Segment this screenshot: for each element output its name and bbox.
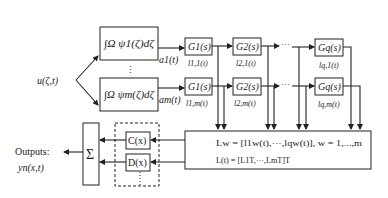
signal-a1: a1(t) [159, 54, 179, 66]
g1-block-rowm: G1(s) [188, 81, 211, 93]
outputs-title: Outputs: [15, 146, 49, 157]
g2-block-row1: G2(s) [236, 41, 259, 53]
l1m-label: l1,m(t) [186, 99, 208, 108]
branch-arrow-top [76, 56, 98, 80]
l11-label: l1,1(t) [188, 59, 208, 68]
c-block: C(x) [126, 132, 150, 149]
g2-block-rowm: G2(s) [236, 81, 259, 93]
gq-block-row1: Gq(s) [318, 42, 341, 54]
output-signal: yn(x,t) [17, 162, 44, 174]
block-diagram: u(ζ,t) ∫Ω ψ1(ζ)dζ ⋮ ∫Ω ψm(ζ)dζ a1(t) am(… [0, 0, 388, 198]
filter-row-m: G1(s) l1,m(t) G2(s) l2,m(t) ··· Gq(s) lq… [185, 78, 343, 109]
gq-block-rowm: Gq(s) [318, 81, 341, 93]
hdots-rowm: ··· [281, 79, 290, 89]
signal-am: am(t) [159, 94, 181, 106]
collector-line-1: Lw = [l1w(t),···,lqw(t)], w = 1,...,m [216, 138, 362, 148]
integrator-block-m: ∫Ω ψm(ζ)dζ [100, 78, 158, 111]
l21-label: l2,1(t) [236, 59, 256, 68]
l2m-label: l2,m(t) [234, 99, 256, 108]
d-block-label: D(x) [128, 157, 147, 169]
lqm-label: lq,m(t) [318, 100, 340, 109]
lq1-label: lq,1(t) [319, 61, 339, 70]
integrator-block-1: ∫Ω ψ1(ζ)dζ [100, 27, 158, 60]
hdots-row1: ··· [281, 39, 290, 49]
collector-box: Lw = [l1w(t),···,lqw(t)], w = 1,...,m L(… [185, 131, 371, 169]
integrator-m-label: ∫Ω ψm(ζ)dζ [103, 89, 155, 101]
g1-block-row1: G1(s) [188, 41, 211, 53]
sum-symbol: Σ [86, 147, 94, 162]
c-block-label: C(x) [128, 135, 146, 147]
branch-arrow-bottom [76, 80, 98, 105]
sum-block: Σ [83, 123, 99, 185]
collector-line-2: L(t) = [L1T,···,LmT]T [216, 155, 290, 165]
input-signal-label: u(ζ,t) [37, 75, 59, 87]
integrator-1-label: ∫Ω ψ1(ζ)dζ [103, 38, 155, 50]
vertical-ellipsis: ⋮ [126, 65, 135, 75]
d-block: D(x) [126, 154, 150, 171]
filter-row-1: G1(s) l1,1(t) G2(s) l2,1(t) ··· Gq(s) lq… [185, 38, 343, 70]
